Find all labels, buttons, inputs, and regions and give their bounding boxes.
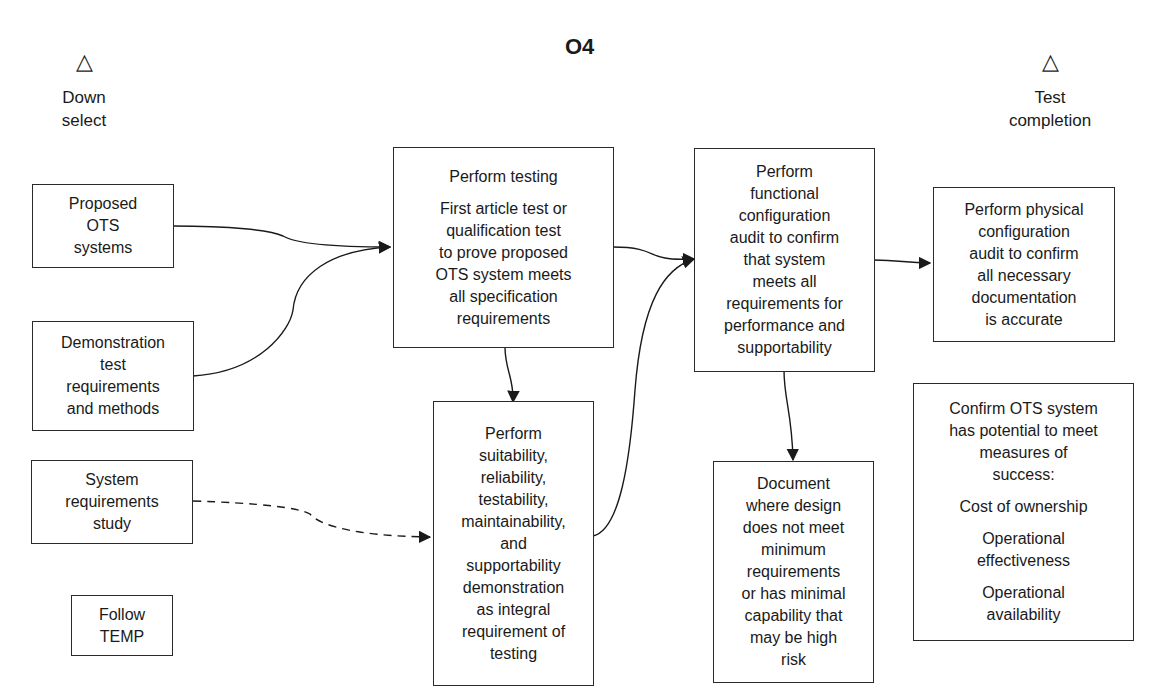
arrow-sysreq-to-suitability bbox=[193, 501, 430, 537]
milestone-test-completion: △ Test completion bbox=[1000, 50, 1100, 132]
milestone-down-select: △ Down select bbox=[50, 50, 118, 132]
box-perform-testing: Perform testing First article test or qu… bbox=[393, 147, 614, 348]
box-proposed-ots-systems: Proposed OTS systems bbox=[32, 184, 174, 268]
arrow-testing-to-functional bbox=[613, 247, 694, 259]
box-document-design-shortfalls: Document where design does not meet mini… bbox=[713, 461, 874, 683]
measure-operational-availability: Operational bbox=[982, 582, 1065, 604]
measure-cost-of-ownership: Cost of ownership bbox=[959, 496, 1087, 518]
diagram-title: O4 bbox=[565, 34, 594, 60]
box-functional-configuration-audit: Perform functional configuration audit t… bbox=[694, 148, 875, 372]
box-confirm-ots-measures-of-success: Confirm OTS system has potential to meet… bbox=[913, 383, 1134, 641]
arrow-demo-to-testing bbox=[193, 247, 390, 376]
box-system-requirements-study: System requirements study bbox=[31, 460, 193, 544]
box-follow-temp: Follow TEMP bbox=[71, 595, 173, 656]
box-demonstration-test-requirements: Demonstration test requirements and meth… bbox=[32, 321, 194, 431]
box-perform-suitability-demonstration: Perform suitability, reliability, testab… bbox=[433, 401, 594, 686]
arrow-functional-to-document bbox=[784, 370, 793, 460]
arrow-testing-to-suitability bbox=[505, 347, 513, 402]
triangle-milestone-icon: △ bbox=[1000, 50, 1100, 74]
box-physical-configuration-audit: Perform physical configuration audit to … bbox=[933, 187, 1115, 342]
triangle-milestone-icon: △ bbox=[50, 50, 118, 74]
arrow-proposed-to-testing bbox=[173, 226, 390, 247]
arrow-functional-to-physical bbox=[874, 260, 930, 263]
measure-operational-effectiveness: Operational bbox=[982, 528, 1065, 550]
